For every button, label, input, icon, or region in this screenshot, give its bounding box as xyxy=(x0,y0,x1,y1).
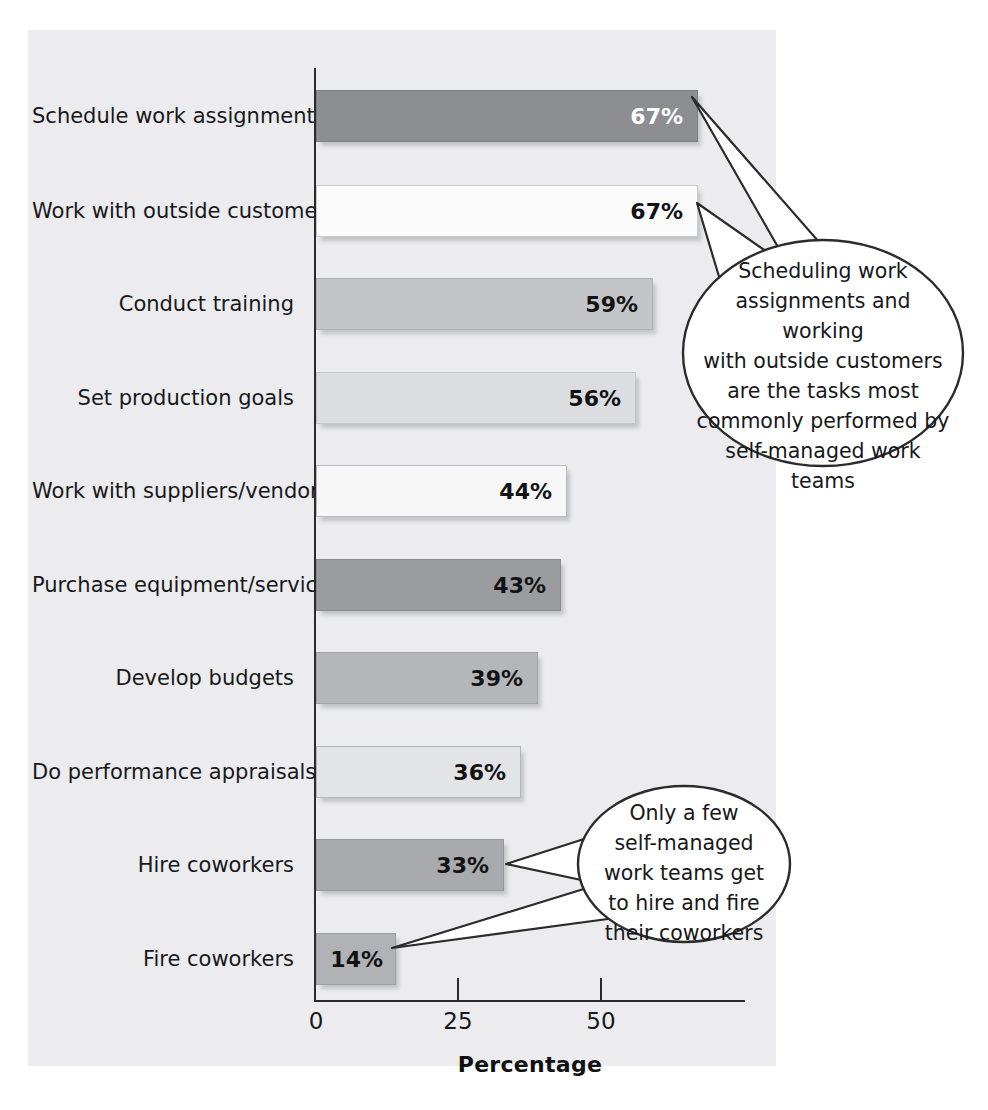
plot-area: 0 25 50 Percentage Schedule work assignm… xyxy=(0,0,988,1110)
callout-bottom-text: Only a few self-managed work teams get t… xyxy=(586,798,782,948)
chart-figure: 0 25 50 Percentage Schedule work assignm… xyxy=(0,0,988,1110)
callout-bottom-shape xyxy=(0,0,988,1110)
callout-bottom: Only a few self-managed work teams get t… xyxy=(0,0,988,1110)
